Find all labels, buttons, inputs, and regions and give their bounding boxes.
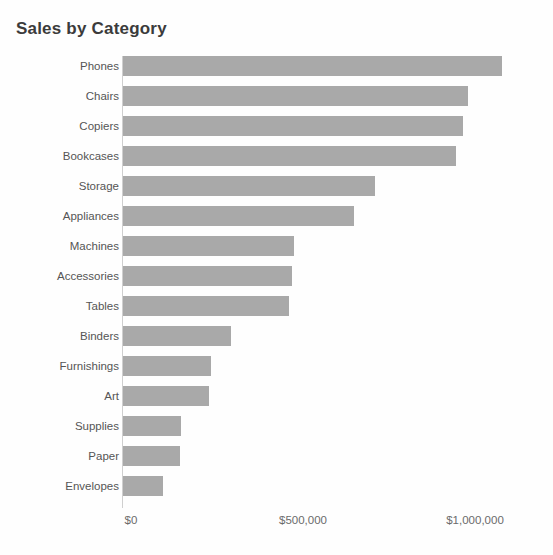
bar[interactable] xyxy=(123,416,181,436)
category-label: Bookcases xyxy=(63,146,119,166)
x-tick-label: $0 xyxy=(125,514,138,526)
category-label: Furnishings xyxy=(60,356,119,376)
bar[interactable] xyxy=(123,356,211,376)
bar[interactable] xyxy=(123,56,502,76)
x-axis-tick-labels: $0$500,000$1,000,000 xyxy=(0,514,553,534)
category-label: Appliances xyxy=(63,206,119,226)
x-tick-label: $500,000 xyxy=(279,514,327,526)
bar-row: Accessories xyxy=(0,266,553,296)
category-label: Envelopes xyxy=(65,476,119,496)
bar[interactable] xyxy=(123,86,468,106)
bar[interactable] xyxy=(123,146,456,166)
bar-row: Tables xyxy=(0,296,553,326)
bar-row: Supplies xyxy=(0,416,553,446)
category-label: Art xyxy=(104,386,119,406)
x-tick-label: $1,000,000 xyxy=(446,514,504,526)
category-label: Machines xyxy=(70,236,119,256)
category-label: Tables xyxy=(86,296,119,316)
bar[interactable] xyxy=(123,116,463,136)
bar-row: Machines xyxy=(0,236,553,266)
sales-by-category-chart: Sales by Category PhonesChairsCopiersBoo… xyxy=(0,0,553,555)
bar-row: Appliances xyxy=(0,206,553,236)
bar[interactable] xyxy=(123,326,231,346)
bar-row: Paper xyxy=(0,446,553,476)
category-label: Accessories xyxy=(57,266,119,286)
bar[interactable] xyxy=(123,236,294,256)
bar[interactable] xyxy=(123,176,375,196)
bar-row: Envelopes xyxy=(0,476,553,506)
bar[interactable] xyxy=(123,266,292,286)
bar-row: Phones xyxy=(0,56,553,86)
bar[interactable] xyxy=(123,206,354,226)
bar-row: Art xyxy=(0,386,553,416)
category-label: Supplies xyxy=(75,416,119,436)
bar[interactable] xyxy=(123,476,163,496)
chart-title: Sales by Category xyxy=(16,19,167,39)
bar-row: Storage xyxy=(0,176,553,206)
bar[interactable] xyxy=(123,386,209,406)
category-label: Binders xyxy=(80,326,119,346)
category-label: Paper xyxy=(88,446,119,466)
plot-area: PhonesChairsCopiersBookcasesStorageAppli… xyxy=(0,56,553,508)
category-label: Phones xyxy=(80,56,119,76)
category-label: Storage xyxy=(79,176,119,196)
bar[interactable] xyxy=(123,446,180,466)
category-label: Copiers xyxy=(79,116,119,136)
bar-row: Furnishings xyxy=(0,356,553,386)
bar[interactable] xyxy=(123,296,289,316)
bar-row: Copiers xyxy=(0,116,553,146)
bar-row: Binders xyxy=(0,326,553,356)
bar-row: Chairs xyxy=(0,86,553,116)
bar-row: Bookcases xyxy=(0,146,553,176)
category-label: Chairs xyxy=(86,86,119,106)
